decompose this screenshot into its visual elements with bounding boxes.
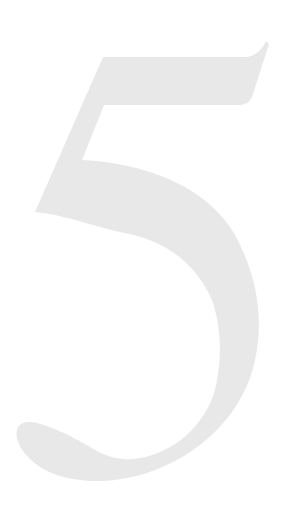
numeral-five-glyph [0,0,283,519]
numeral-canvas: 5 [0,0,283,519]
